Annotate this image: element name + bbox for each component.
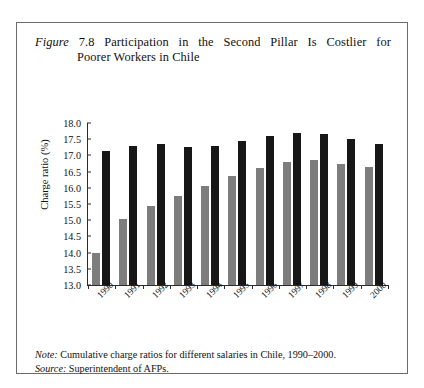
bar bbox=[365, 167, 373, 285]
bar-group bbox=[252, 123, 279, 285]
bar-group bbox=[170, 123, 197, 285]
bar bbox=[102, 151, 110, 285]
figure-title-line2: Poorer Workers in Chile bbox=[35, 50, 391, 65]
bar bbox=[184, 147, 192, 285]
source-line: Source: Superintendent of AFPs. bbox=[35, 362, 395, 376]
y-axis-tick-label: 18.0 bbox=[63, 118, 81, 129]
x-axis-tick-mark bbox=[143, 285, 144, 289]
bar bbox=[266, 136, 274, 285]
plot-area: 1990199119921993199419951996199719981999… bbox=[87, 123, 388, 286]
x-axis-tick-mark bbox=[197, 285, 198, 289]
y-axis-tick-label: 13.0 bbox=[63, 280, 81, 291]
bar-group bbox=[333, 123, 360, 285]
figure-label: Figure bbox=[35, 35, 69, 49]
y-axis-tick-label: 17.0 bbox=[63, 150, 81, 161]
x-axis-tick-mark bbox=[361, 285, 362, 289]
y-axis-tick-label: 17.5 bbox=[63, 134, 81, 145]
bar bbox=[92, 253, 100, 285]
bar bbox=[347, 139, 355, 285]
y-axis-tick-label: 16.5 bbox=[63, 166, 81, 177]
bar bbox=[228, 176, 236, 285]
bar-group bbox=[115, 123, 142, 285]
bar bbox=[201, 186, 209, 285]
bar bbox=[174, 196, 182, 285]
source-label: Source: bbox=[35, 363, 66, 374]
x-axis-tick-mark bbox=[88, 285, 89, 289]
figure-notes: Note: Cumulative charge ratios for diffe… bbox=[35, 348, 395, 375]
bar-group bbox=[197, 123, 224, 285]
note-label: Note: bbox=[35, 349, 58, 360]
bar bbox=[375, 144, 383, 285]
bar bbox=[157, 144, 165, 285]
y-axis-tick-label: 16.0 bbox=[63, 182, 81, 193]
bar-group bbox=[361, 123, 388, 285]
bar bbox=[256, 168, 264, 285]
y-axis-tick-label: 15.0 bbox=[63, 215, 81, 226]
y-axis-title: Charge ratio (%) bbox=[39, 115, 50, 235]
bar-group bbox=[143, 123, 170, 285]
x-axis-tick-mark bbox=[306, 285, 307, 289]
x-axis-tick-mark bbox=[170, 285, 171, 289]
y-axis-tick-label: 15.5 bbox=[63, 199, 81, 210]
bar bbox=[147, 206, 155, 285]
figure-frame: Figure 7.8 Participation in the Second P… bbox=[16, 22, 408, 374]
bar bbox=[337, 164, 345, 286]
x-axis-tick-mark bbox=[388, 285, 389, 289]
y-axis-tick-labels: 18.017.517.016.516.015.515.014.514.013.5… bbox=[55, 123, 85, 285]
bar bbox=[119, 219, 127, 285]
bar-group bbox=[306, 123, 333, 285]
bar-group bbox=[88, 123, 115, 285]
x-axis-tick-mark bbox=[224, 285, 225, 289]
bar-group bbox=[224, 123, 251, 285]
figure-number: 7.8 bbox=[79, 35, 95, 49]
figure-title-line1: Participation in the Second Pillar Is Co… bbox=[104, 35, 391, 49]
bar bbox=[320, 134, 328, 285]
bar-group bbox=[279, 123, 306, 285]
figure-title: Figure 7.8 Participation in the Second P… bbox=[35, 35, 391, 65]
bar bbox=[238, 141, 246, 285]
chart-plot: Charge ratio (%) 18.017.517.016.516.015.… bbox=[17, 101, 407, 321]
note-line: Note: Cumulative charge ratios for diffe… bbox=[35, 348, 395, 362]
y-axis-tick-label: 13.5 bbox=[63, 263, 81, 274]
y-axis-tick-label: 14.5 bbox=[63, 231, 81, 242]
bar bbox=[211, 146, 219, 285]
x-axis-tick-mark bbox=[252, 285, 253, 289]
x-axis-tick-mark bbox=[279, 285, 280, 289]
bar bbox=[293, 133, 301, 285]
source-text: Superintendent of AFPs. bbox=[66, 363, 168, 374]
bar bbox=[283, 162, 291, 285]
bar bbox=[310, 160, 318, 285]
y-axis-tick-label: 14.0 bbox=[63, 247, 81, 258]
x-axis-tick-mark bbox=[115, 285, 116, 289]
bar bbox=[129, 146, 137, 285]
note-text: Cumulative charge ratios for different s… bbox=[58, 349, 336, 360]
x-axis-tick-mark bbox=[333, 285, 334, 289]
